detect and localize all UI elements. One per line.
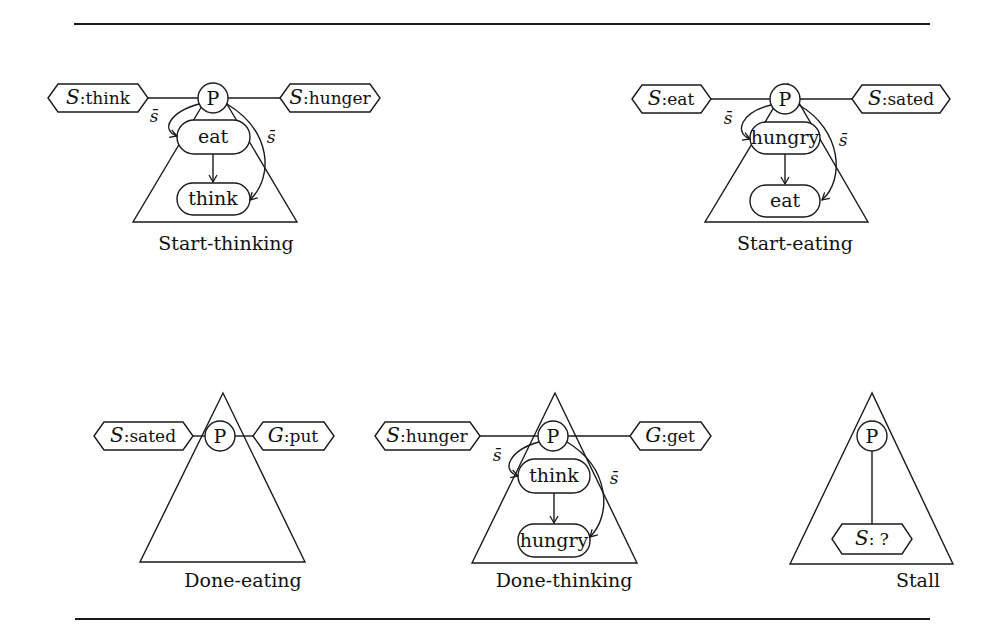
root-node: P — [857, 421, 887, 451]
svg-text:think: think — [529, 464, 579, 486]
bottom-tag-hexagon: S: ? — [832, 524, 912, 554]
svg-text:P: P — [779, 88, 792, 110]
goal-symbol: G — [645, 423, 661, 447]
svg-text:P: P — [866, 425, 879, 447]
svg-text:P: P — [547, 425, 560, 447]
edge-label-left: s̄ — [150, 106, 159, 126]
svg-text:S:eat: S:eat — [648, 86, 695, 110]
root-node: P — [770, 84, 800, 114]
diagram-start-eating: S:eat S:sated P hungry eat s̄ s̄ Start-e… — [632, 84, 950, 254]
state-symbol: S — [289, 85, 303, 109]
node-think: think — [177, 183, 250, 215]
caption: Start-eating — [737, 232, 853, 254]
svg-text:S:think: S:think — [66, 85, 131, 109]
state-symbol: S — [66, 85, 80, 109]
node-think: think — [518, 459, 590, 493]
state-symbol: S — [110, 423, 124, 447]
caption: Start-thinking — [158, 232, 293, 254]
edge-label-right: s̄ — [839, 130, 848, 150]
right-tag-hexagon: G:put — [253, 422, 334, 450]
right-tag-hexagon: S:sated — [852, 85, 950, 113]
node-eat: eat — [177, 120, 250, 154]
svg-text:G:get: G:get — [645, 423, 695, 447]
right-tag-hexagon: S:hunger — [280, 84, 380, 112]
svg-text:S:hunger: S:hunger — [289, 85, 371, 109]
svg-text:S:sated: S:sated — [868, 86, 934, 110]
node-eat: eat — [750, 185, 820, 217]
diagram-start-thinking: S:think S:hunger P eat think s̄ s̄ Start… — [48, 83, 380, 254]
goal-symbol: G — [268, 423, 284, 447]
svg-text:P: P — [207, 87, 220, 109]
root-node: P — [538, 421, 568, 451]
svg-text:P: P — [214, 425, 227, 447]
svg-text:G:put: G:put — [268, 423, 319, 447]
svg-text:S: ?: S: ? — [855, 526, 889, 550]
node-hungry: hungry — [518, 524, 590, 557]
caption: Done-thinking — [496, 569, 633, 591]
left-tag-hexagon: S:hunger — [375, 422, 480, 450]
svg-text:eat: eat — [770, 189, 801, 211]
state-symbol: S — [868, 86, 882, 110]
svg-text:think: think — [188, 187, 238, 209]
left-tag-hexagon: S:think — [48, 84, 148, 112]
state-symbol: S — [855, 526, 869, 550]
svg-text:S:sated: S:sated — [110, 423, 176, 447]
node-hungry: hungry — [750, 122, 820, 154]
diagram-stall: P S: ? Stall — [790, 393, 953, 591]
right-tag-hexagon: G:get — [630, 422, 711, 450]
svg-text:eat: eat — [198, 125, 229, 147]
svg-text:S:hunger: S:hunger — [386, 423, 468, 447]
svg-text:hungry: hungry — [520, 529, 589, 551]
left-tag-hexagon: S:sated — [94, 422, 193, 450]
caption: Done-eating — [184, 569, 301, 591]
subtree-triangle — [140, 393, 305, 562]
diagram-done-eating: S:sated G:put P Done-eating — [94, 393, 334, 591]
figure-canvas: S:think S:hunger P eat think s̄ s̄ Start… — [0, 0, 1007, 626]
state-symbol: S — [386, 423, 400, 447]
caption: Stall — [896, 569, 940, 591]
left-tag-hexagon: S:eat — [632, 85, 711, 113]
root-node: P — [198, 83, 228, 113]
edge-label-left: s̄ — [493, 445, 502, 465]
edge-label-right: s̄ — [267, 127, 276, 147]
edge-label-left: s̄ — [724, 108, 733, 128]
state-symbol: S — [648, 86, 662, 110]
svg-text:hungry: hungry — [751, 126, 820, 148]
edge-label-right: s̄ — [610, 468, 619, 488]
diagram-done-thinking: S:hunger G:get P think hungry s̄ s̄ Done… — [375, 393, 711, 591]
root-node: P — [205, 421, 235, 451]
